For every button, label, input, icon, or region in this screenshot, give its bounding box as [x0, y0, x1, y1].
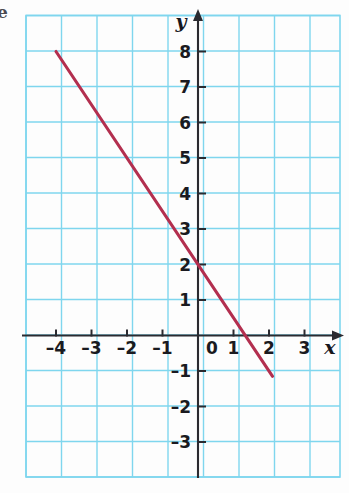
- y-axis-name: y: [174, 10, 188, 32]
- x-tick-label: –3: [81, 338, 101, 358]
- x-tick-label: –1: [152, 338, 172, 358]
- x-tick-label: –2: [117, 338, 137, 358]
- origin-label: 0: [206, 338, 218, 358]
- y-tick-label: –2: [171, 397, 191, 417]
- y-tick-label: 3: [179, 219, 191, 239]
- y-tick-labels: –3–2–112345678: [171, 42, 192, 453]
- y-tick-label: 2: [179, 255, 191, 275]
- figure-canvas: e –4–3–2–10123 –3–2–112: [0, 0, 349, 493]
- x-tick-label: –4: [46, 338, 67, 358]
- y-tick-label: 7: [179, 77, 191, 97]
- y-tick-label: –1: [171, 361, 191, 381]
- y-tick-label: 4: [179, 184, 191, 204]
- coordinate-plot: –4–3–2–10123 –3–2–112345678 x y: [0, 0, 349, 493]
- y-tick-label: –3: [171, 432, 191, 452]
- data-series-line: [56, 52, 273, 377]
- y-tick-label: 5: [179, 148, 191, 168]
- y-tick-label: 6: [179, 113, 191, 133]
- y-tick-label: 8: [179, 42, 191, 62]
- x-tick-labels: –4–3–2–10123: [46, 338, 311, 358]
- x-tick-label: 2: [263, 338, 275, 358]
- x-axis-name: x: [323, 336, 336, 358]
- x-tick-label: 1: [228, 338, 240, 358]
- y-tick-label: 1: [179, 290, 191, 310]
- x-tick-label: 3: [299, 338, 311, 358]
- line-graph-stroke: [56, 52, 273, 377]
